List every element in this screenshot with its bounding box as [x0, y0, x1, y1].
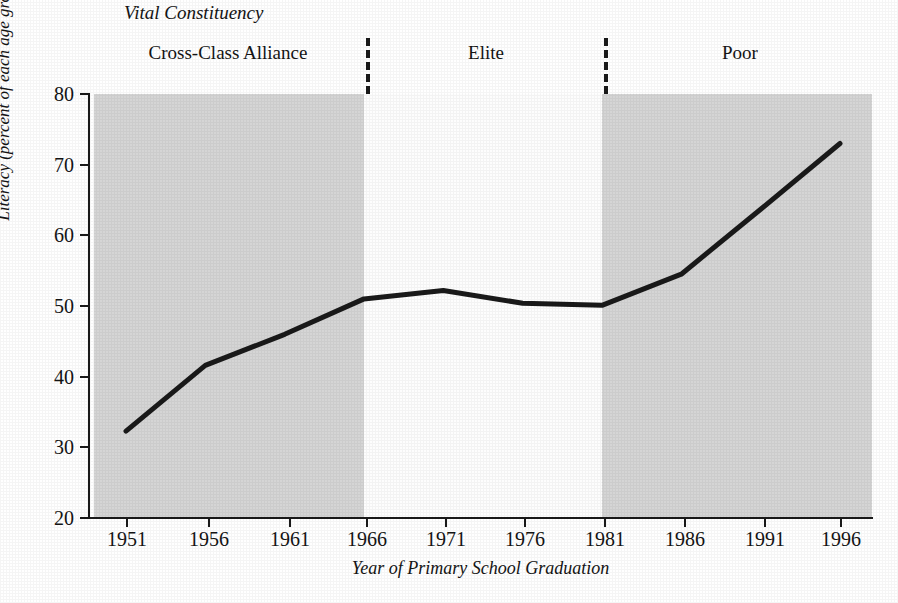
band-label-cross-class-alliance: Cross-Class Alliance: [149, 42, 308, 64]
x-tick-label-1971: 1971: [401, 528, 491, 550]
x-tick-label-1996: 1996: [796, 528, 886, 550]
x-tick-label-1986: 1986: [640, 528, 730, 550]
chart-figure: 80 70 60 50 40 30 20 1951 1956 1961 1966…: [0, 0, 898, 603]
x-tick-1981: [604, 519, 606, 527]
x-tick-1951: [126, 519, 128, 527]
x-tick-1956: [208, 519, 210, 527]
y-tick-60: [80, 234, 89, 236]
y-tick-label-50: 50: [28, 296, 74, 316]
y-tick-label-60: 60: [28, 225, 74, 245]
literacy-polyline: [126, 144, 840, 432]
divider-1981: [604, 38, 608, 94]
y-tick-70: [80, 164, 89, 166]
y-tick-80: [80, 93, 89, 95]
x-tick-1966: [366, 519, 368, 527]
x-tick-1976: [524, 519, 526, 527]
y-tick-label-40: 40: [28, 367, 74, 387]
x-tick-1991: [764, 519, 766, 527]
x-axis-line: [88, 517, 873, 519]
x-axis-title: Year of Primary School Graduation: [89, 558, 872, 579]
y-axis-title: Literacy (percent of each age group): [0, 0, 14, 306]
x-tick-label-1956: 1956: [164, 528, 254, 550]
y-tick-40: [80, 376, 89, 378]
band-label-elite: Elite: [468, 42, 504, 64]
x-tick-1986: [684, 519, 686, 527]
legend-title: Vital Constituency: [124, 2, 264, 24]
band-label-poor: Poor: [722, 42, 758, 64]
x-tick-label-1966: 1966: [322, 528, 412, 550]
x-tick-label-1951: 1951: [82, 528, 172, 550]
x-tick-label-1981: 1981: [560, 528, 650, 550]
y-tick-label-30: 30: [28, 437, 74, 457]
divider-1966: [366, 38, 370, 94]
x-tick-1996: [840, 519, 842, 527]
x-tick-label-1976: 1976: [480, 528, 570, 550]
plot-area: [89, 94, 872, 518]
y-tick-20: [80, 517, 89, 519]
y-tick-30: [80, 446, 89, 448]
literacy-line-series: [89, 94, 872, 518]
y-tick-50: [80, 305, 89, 307]
y-tick-label-20: 20: [28, 508, 74, 528]
x-tick-1961: [289, 519, 291, 527]
y-tick-label-70: 70: [28, 155, 74, 175]
y-tick-label-80: 80: [28, 84, 74, 104]
x-tick-1971: [445, 519, 447, 527]
